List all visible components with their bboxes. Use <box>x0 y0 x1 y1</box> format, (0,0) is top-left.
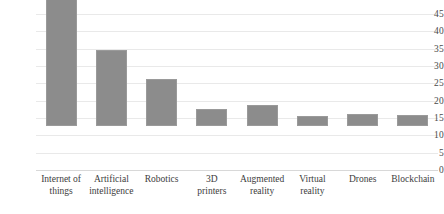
x-tick-label-line: reality <box>283 186 341 198</box>
bar <box>247 105 278 126</box>
bar <box>196 109 227 126</box>
bar <box>297 116 328 126</box>
bar <box>347 114 378 126</box>
bar <box>397 115 428 126</box>
bar <box>46 0 77 126</box>
bar <box>146 79 177 126</box>
bar-chart: 051015202530354045 Internet ofthingsArti… <box>0 0 444 214</box>
x-tick-label-line: Blockchain <box>384 174 442 186</box>
x-tick-label-line: intelligence <box>82 186 140 198</box>
x-axis-line <box>36 170 438 171</box>
bar <box>96 50 127 126</box>
bars-group <box>36 0 438 170</box>
x-tick-labels: Internet ofthingsArtificialintelligenceR… <box>36 174 438 214</box>
y-axis <box>0 0 34 214</box>
x-tick-label: Blockchain <box>384 174 442 186</box>
